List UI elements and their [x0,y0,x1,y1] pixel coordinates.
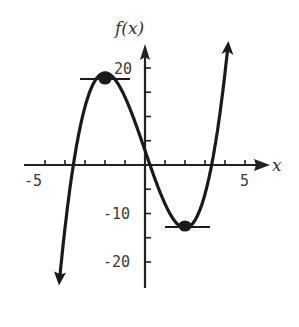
y-tick-label-20: 20 [114,62,132,77]
function-graph [0,0,299,327]
x-tick-label-neg5: -5 [24,174,42,189]
local-minimum-marker [165,221,210,232]
y-tick-label-neg20: -20 [103,255,130,270]
x-tick-label-5: 5 [240,174,249,189]
y-tick-label-neg10: -10 [103,207,130,222]
x-axis-title: x [272,158,282,173]
y-axis-title: f(x) [115,21,144,36]
